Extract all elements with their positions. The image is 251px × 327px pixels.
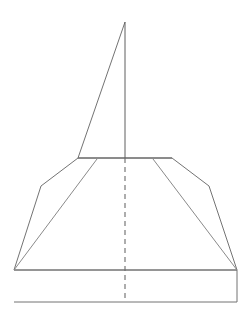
line-drawing-svg xyxy=(0,0,251,327)
drawing-canvas xyxy=(0,0,251,327)
